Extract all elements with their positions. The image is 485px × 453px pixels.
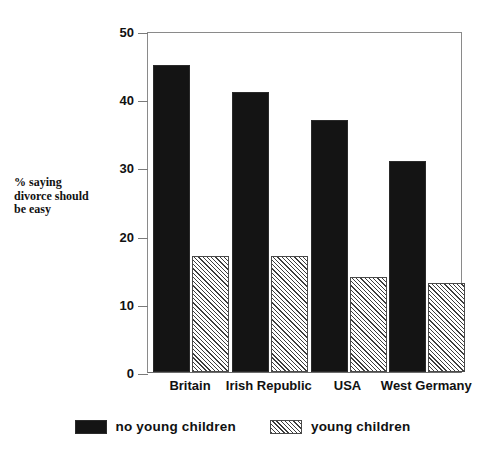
legend-swatch-hatch-icon — [270, 420, 302, 434]
y-axis-tick: 50 — [138, 33, 148, 34]
bar-irish-republic-young-children[interactable] — [271, 256, 308, 372]
y-axis-tick-label: 30 — [120, 161, 134, 176]
bar-irish-republic-no-young-children[interactable] — [232, 92, 269, 372]
y-axis-label: % saying divorce should be easy — [14, 176, 122, 217]
bar-usa-no-young-children[interactable] — [311, 120, 348, 372]
y-axis-tick: 40 — [138, 101, 148, 102]
bar-west-germany-young-children[interactable] — [428, 283, 465, 372]
y-axis-tick: 0 — [138, 374, 148, 375]
plot-area: 01020304050 — [147, 32, 462, 373]
bar-britain-no-young-children[interactable] — [153, 65, 190, 372]
y-axis-tick: 20 — [138, 238, 148, 239]
y-axis-tick-label: 0 — [127, 366, 134, 381]
legend-label: no young children — [116, 419, 236, 434]
x-axis-category-label: USA — [334, 378, 361, 393]
legend-item-young-children[interactable]: young children — [270, 419, 411, 434]
legend-item-no-young-children[interactable]: no young children — [75, 419, 236, 434]
chart-legend: no young children young children — [0, 419, 485, 434]
bar-britain-young-children[interactable] — [192, 256, 229, 372]
legend-label: young children — [311, 419, 411, 434]
bar-west-germany-no-young-children[interactable] — [389, 161, 426, 372]
y-axis-tick-label: 10 — [120, 298, 134, 313]
y-axis-tick-label: 40 — [120, 93, 134, 108]
bar-chart-figure: % saying divorce should be easy 01020304… — [0, 0, 485, 453]
y-axis-tick-label: 50 — [120, 25, 134, 40]
x-axis-category-label: West Germany — [381, 378, 472, 393]
bar-usa-young-children[interactable] — [350, 277, 387, 372]
x-axis-category-label: Britain — [169, 378, 210, 393]
y-axis-tick-label: 20 — [120, 230, 134, 245]
y-axis-tick: 30 — [138, 169, 148, 170]
y-axis-tick: 10 — [138, 306, 148, 307]
x-axis-category-label: Irish Republic — [226, 378, 312, 393]
legend-swatch-solid-icon — [75, 420, 107, 434]
